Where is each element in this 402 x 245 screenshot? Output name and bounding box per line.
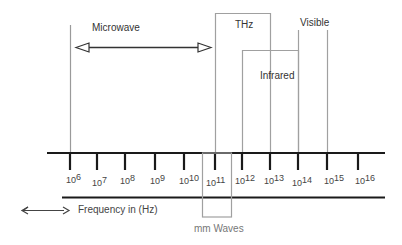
tick-label: 1013 (264, 176, 284, 186)
thz-label: THz (235, 19, 253, 30)
tick-label: 109 (150, 176, 165, 186)
infrared-label: Infrared (260, 70, 294, 81)
tick-label: 1012 (235, 176, 255, 186)
visible-label: Visible (300, 17, 329, 28)
tick-label: 108 (120, 176, 135, 186)
mm-waves-label: mm Waves (194, 223, 244, 234)
tick-label: 1015 (324, 176, 344, 186)
microwave-range-arrow-icon (76, 43, 211, 52)
double-arrow-icon (22, 207, 69, 214)
spectrum-diagram: Microwave THz Visible Infrared mm Waves … (0, 0, 402, 245)
tick-label: 107 (92, 178, 107, 188)
legend-label: Frequency in (Hz) (78, 204, 157, 215)
tick-label: 1011 (206, 178, 225, 188)
microwave-label: Microwave (92, 22, 140, 33)
tick-label: 1010 (179, 176, 199, 186)
tick-label: 1014 (292, 178, 312, 188)
tick-label: 1016 (355, 176, 375, 186)
axis-ticks (70, 153, 358, 170)
diagram-graphics (0, 0, 402, 245)
tick-label: 106 (66, 175, 81, 185)
